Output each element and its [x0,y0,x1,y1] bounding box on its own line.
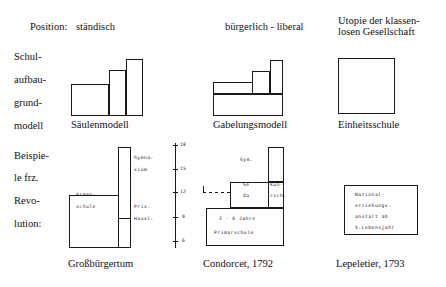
row-label-example-line4: lution: [14,218,41,230]
row-label-model-line1: Schul- [14,51,41,63]
example-caption-column-2: Condorcet, 1792 [203,258,273,270]
gymnasium-label-line2: sium [134,166,147,175]
row-label-model-line3: grund- [14,97,42,109]
privathauslehrer-label-line1: Priv. [134,203,151,212]
nationalerziehungsanstalt-label-line3: anstalt ab [355,213,388,222]
nationalerziehungsanstalt-label-line1: National- [355,191,385,200]
sekundarschule-label-line2a: da [243,192,250,201]
age-axis-label-6: 6 [182,238,185,243]
age-axis-label-9: 9 [182,214,185,219]
condorcet-dashed-connector [203,192,230,193]
gymnasium-label-line1: Gymna- [134,154,154,163]
model-name-column-1: Säulenmodell [71,119,129,131]
age-axis-tick-15 [173,169,178,170]
saeulenmodell-bar-high [126,59,143,116]
primarschule-box [206,208,284,246]
gabelungsmodell-branch-mid [252,71,270,94]
model-name-column-2: Gabelungsmodell [213,119,287,131]
age-axis-line [175,143,176,248]
gymnasium-column [118,147,131,248]
row-label-model-line2: aufbau- [14,74,46,86]
nationalerziehungsanstalt-label-line2: erziehungs- [355,202,391,211]
gabelungsmodell-branch-high [270,60,283,94]
position-value-column-3-line1: Utopie der klassen- [338,15,420,27]
age-axis-label-12: 12 [180,189,186,194]
row-label-model-line4: modell [14,120,43,132]
sekundarschule-label-line1a: Se [243,181,250,190]
model-name-column-3: Einheitsschule [338,119,399,131]
nationalerziehungsanstalt-label-line4: 5.Lebensjahr [355,224,395,233]
school-system-comparison-figure: Position: ständisch bürgerlich - liberal… [0,0,446,287]
einheitsschule-square [338,58,395,114]
sekundarschule-label-line1b: kun- [270,181,283,190]
example-caption-column-3: Lepeletier, 1793 [336,258,404,270]
gymnasium-privat-divider [118,218,131,219]
armenschule-label-line1: Armen- [76,191,96,200]
condorcet-gymnasium-label: Gym. [240,156,253,165]
saeulenmodell-bar-mid [109,70,126,116]
position-value-column-1: ständisch [76,21,115,33]
condorcet-dashed-connector-tip [203,186,204,193]
age-axis-label-18: 18 [180,142,186,147]
sekundarschule-label-line2b: rsch. [270,192,287,201]
example-caption-column-1: Großbürgertum [68,258,133,270]
row-label-position: Position: [30,21,67,33]
armenschule-label-line2: schule [76,203,96,212]
saeulenmodell-bar-low [71,84,109,116]
privathauslehrer-label-line2: Hausl. [134,215,154,224]
age-axis-tick-6 [173,241,178,242]
age-axis-tick-12 [173,192,178,193]
gabelungsmodell-base [213,94,283,116]
row-label-example-line2: le frz. [14,172,38,184]
age-axis-tick-9 [173,217,178,218]
row-label-example-line3: Revo- [14,195,40,207]
primarschule-label-line1: 3 - 6 Jahre [219,215,255,224]
row-label-example-line1: Beispie- [14,150,49,162]
age-axis-label-15: 15 [180,166,186,171]
age-axis-tick-18 [173,145,178,146]
position-value-column-2: bürgerlich - liberal [225,21,304,33]
primarschule-label-line2: Primarschule [214,229,254,238]
position-value-column-3-line2: losen Gesellschaft [338,26,415,38]
sekundarschule-split-line [268,182,269,208]
condorcet-gymnasium-box [268,147,284,182]
